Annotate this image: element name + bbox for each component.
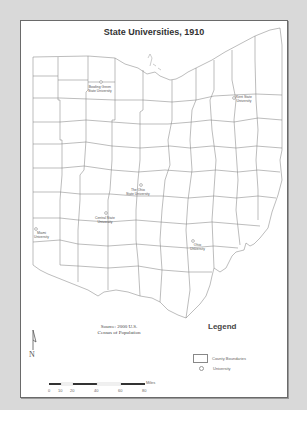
scale-tick-0: 0	[48, 388, 50, 393]
university-label-ohio-state: The Ohio State University	[126, 188, 150, 196]
scale-tick-80: 80	[142, 388, 146, 393]
university-marker	[140, 184, 143, 187]
scale-tick-20: 20	[70, 388, 74, 393]
university-marker	[105, 212, 108, 215]
scale-tick-10: 10	[58, 388, 62, 393]
scale-bar	[49, 383, 145, 385]
legend-item-county-boundaries: County Boundaries	[193, 354, 246, 363]
scale-tick-60: 60	[118, 388, 122, 393]
university-marker	[35, 228, 38, 231]
state-outline	[33, 28, 282, 318]
university-label-ohio: Ohio University	[190, 243, 205, 251]
legend-title: Legend	[208, 322, 236, 331]
university-label-central-state: Central State University	[95, 216, 115, 224]
source-note: Source: 2000 U.S. Census of Population	[84, 324, 154, 336]
scale-tick-40: 40	[94, 388, 98, 393]
university-symbol-icon	[199, 366, 204, 371]
north-label: N	[29, 350, 35, 359]
legend-item-university: University	[193, 366, 231, 371]
university-label-bowling-green: Bowling Green State University	[88, 85, 112, 93]
university-label-miami: Miami University	[34, 231, 49, 239]
university-label-kent-state: Kent State University	[236, 95, 252, 103]
county-boundary-swatch	[193, 354, 208, 363]
university-marker	[100, 81, 103, 84]
scale-unit: Miles	[146, 380, 155, 385]
university-marker	[233, 97, 236, 100]
university-marker	[192, 240, 195, 243]
ohio-county-map	[0, 0, 307, 423]
